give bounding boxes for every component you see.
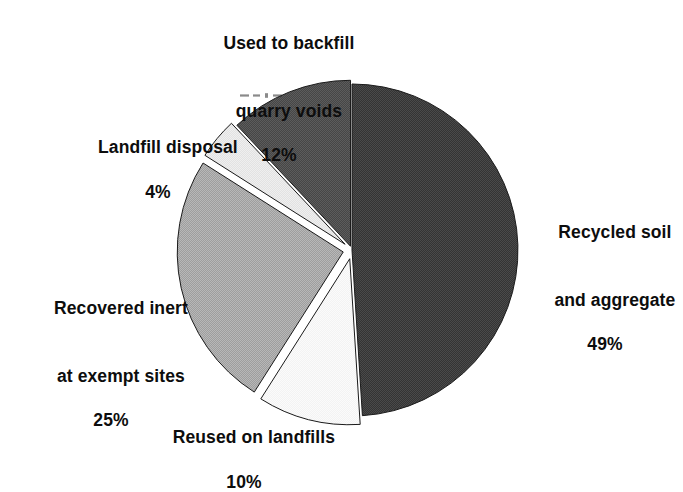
slice-label-percent: 10% — [136, 471, 352, 492]
slice-label-landfill-disposal: Landfill disposal 4% — [58, 114, 258, 248]
slice-label-line1: Used to backfill — [223, 33, 354, 53]
slice-label-percent: 49% — [531, 333, 679, 355]
slice-label-percent: 4% — [58, 181, 258, 203]
slice-label-line1: Recovered inert — [54, 298, 188, 318]
slice-label-line1: Recycled soil — [558, 222, 671, 242]
slice-label-line1: Reused on landfills — [173, 427, 335, 447]
slice-label-recycled-soil-and-aggregate: Recycled soil and aggregate 49% — [531, 199, 679, 401]
slice-label-line2: at exempt sites — [57, 366, 185, 386]
slice-label-reused-on-landfills: Reused on landfills 10% — [136, 404, 352, 492]
slice-label-line2: and aggregate — [554, 290, 675, 310]
slice-label-line1: Landfill disposal — [98, 137, 238, 157]
